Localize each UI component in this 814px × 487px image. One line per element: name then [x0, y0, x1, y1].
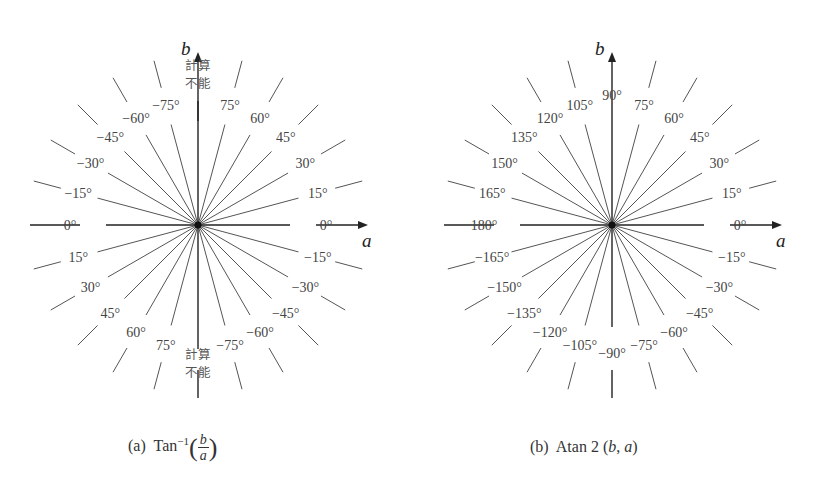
ray-135-inner [124, 151, 198, 225]
ray-330-outer [321, 296, 345, 310]
angle-label-45: 45° [690, 130, 710, 145]
ray-120-outer [113, 78, 127, 102]
a-axis-label: a [776, 230, 786, 251]
b-axis-label: b [181, 38, 191, 59]
ray-210-outer [51, 296, 75, 310]
angle-label-300: −60° [246, 325, 274, 340]
angle-label-285: −75° [216, 338, 244, 353]
ray-300-inner [612, 225, 664, 315]
angle-label-240: 60° [126, 325, 146, 340]
angle-label-300: −60° [660, 325, 688, 340]
ray-285-inner [198, 225, 225, 325]
angle-label-345: −15° [718, 250, 746, 265]
caption-a-sup: −1 [177, 435, 189, 447]
ray-105-inner [171, 125, 198, 225]
undefined-label-bottom-line1: 計算 [185, 347, 211, 362]
ray-240-inner [146, 225, 198, 315]
undefined-label-top-line1: 計算 [185, 58, 211, 73]
angle-label-45: 45° [276, 130, 296, 145]
ray-285-outer [649, 362, 656, 389]
caption-a-func: Tan [153, 437, 177, 454]
angle-label-15: 15° [308, 186, 328, 201]
fraction-numerator: b [198, 432, 209, 448]
ray-210-outer [465, 296, 489, 310]
ray-15-outer [335, 181, 362, 188]
ray-15-inner [612, 198, 712, 225]
angle-label-105: −75° [152, 98, 180, 113]
angle-label-255: −105° [563, 338, 598, 353]
ray-15-outer [749, 181, 776, 188]
angle-label-210: −150° [487, 280, 522, 295]
angle-label-135: −45° [97, 130, 125, 145]
ray-120-outer [527, 78, 541, 102]
angle-label-225: −135° [507, 306, 542, 321]
a-axis-label: a [362, 230, 372, 251]
ray-45-inner [612, 151, 686, 225]
ray-120-inner [560, 135, 612, 225]
ray-255-outer [154, 362, 161, 389]
ray-30-outer [735, 140, 759, 154]
angle-label-180: 180° [471, 218, 498, 233]
ray-225-outer [78, 325, 98, 345]
angle-label-30: 30° [710, 156, 730, 171]
ray-210-inner [108, 225, 198, 277]
ray-75-inner [198, 125, 225, 225]
angle-label-0: 0° [734, 218, 747, 233]
a-axis-arrow-icon [358, 221, 368, 229]
angle-label-165: 165° [479, 186, 506, 201]
ray-195-inner [98, 225, 198, 252]
ray-120-inner [146, 135, 198, 225]
caption-a-prefix: (a) [128, 437, 146, 454]
ray-240-outer [113, 348, 127, 372]
ray-345-outer [335, 262, 362, 269]
ray-345-inner [198, 225, 298, 252]
angle-label-315: −45° [686, 306, 714, 321]
ray-255-outer [568, 362, 575, 389]
caption-b-func: Atan 2 [556, 438, 599, 455]
ray-135-outer [78, 105, 98, 125]
ray-45-inner [198, 151, 272, 225]
angle-label-195: −165° [475, 250, 510, 265]
angle-label-90: 90° [602, 88, 622, 103]
ray-150-outer [465, 140, 489, 154]
angle-label-75: 75° [220, 98, 240, 113]
angle-label-345: −15° [304, 250, 332, 265]
ray-30-inner [612, 173, 702, 225]
caption-b-prefix: (b) [530, 438, 549, 455]
angle-label-120: −60° [122, 111, 150, 126]
ray-75-inner [612, 125, 639, 225]
angle-label-15: 15° [722, 186, 742, 201]
origin-point [195, 222, 202, 229]
origin-point [609, 222, 616, 229]
ray-345-inner [612, 225, 712, 252]
angle-label-120: 120° [537, 111, 564, 126]
b-axis-arrow-icon [608, 52, 616, 62]
ray-105-outer [154, 61, 161, 88]
ray-150-outer [51, 140, 75, 154]
angle-label-315: −45° [272, 306, 300, 321]
angle-label-30: 30° [296, 156, 316, 171]
angle-label-150: 150° [491, 156, 518, 171]
ray-135-outer [492, 105, 512, 125]
caption-b-arg2: a [624, 438, 632, 455]
a-axis-arrow-icon [772, 221, 782, 229]
ray-165-inner [98, 198, 198, 225]
ray-15-inner [198, 198, 298, 225]
ray-150-inner [522, 173, 612, 225]
diagram-canvas: ab0°15°30°45°60°75°−75°−60°−45°−30°−15°0… [0, 0, 814, 487]
ray-255-inner [585, 225, 612, 325]
ray-315-inner [612, 225, 686, 299]
ray-150-inner [108, 173, 198, 225]
ray-285-outer [235, 362, 242, 389]
caption-a-fraction: ba [198, 432, 209, 463]
ray-330-inner [198, 225, 288, 277]
caption-a: (a) Tan−1(ba) [128, 432, 217, 463]
ray-30-outer [321, 140, 345, 154]
diagram-tan-inverse: ab0°15°30°45°60°75°−75°−60°−45°−30°−15°0… [30, 38, 372, 398]
ray-240-outer [527, 348, 541, 372]
angle-label-285: −75° [630, 338, 658, 353]
caption-b-arg1: b [608, 438, 616, 455]
ray-255-inner [171, 225, 198, 325]
angle-label-135: 135° [511, 130, 538, 145]
diagram-atan2: ab0°15°30°45°60°75°90°105°120°135°150°16… [444, 38, 786, 398]
